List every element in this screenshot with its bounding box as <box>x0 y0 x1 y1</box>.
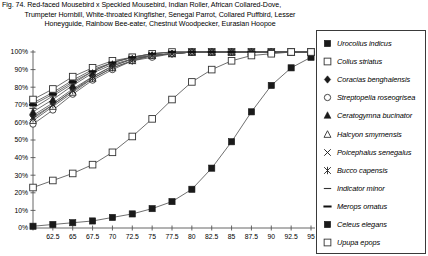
svg-text:70: 70 <box>109 233 117 240</box>
data-series-layer <box>29 48 315 229</box>
legend-item-urocolius-indicus[interactable]: Urocolius indicus <box>321 35 425 52</box>
open-square-icon <box>321 236 334 249</box>
svg-text:67.5: 67.5 <box>86 233 99 240</box>
open-square-icon <box>321 55 334 68</box>
svg-text:70%: 70% <box>14 101 28 108</box>
legend-item-upupa-epops[interactable]: Upupa epops <box>321 234 425 251</box>
legend-item-indicator-minor[interactable]: Indicator minor <box>321 180 425 197</box>
svg-text:65: 65 <box>69 233 77 240</box>
open-triangle-icon <box>321 128 334 141</box>
svg-text:85: 85 <box>228 233 236 240</box>
svg-text:75: 75 <box>148 233 156 240</box>
thick-dash-icon <box>321 200 334 213</box>
legend-label: Halcyon smyrnensis <box>337 130 402 139</box>
legend-label: Streptopelia roseogrisea <box>337 93 415 102</box>
legend-item-ceratogymna-bucinator[interactable]: Ceratogymna bucinator <box>321 107 425 124</box>
filled-square-icon <box>321 37 334 50</box>
open-circle-icon <box>321 91 334 104</box>
asterisk-icon <box>321 164 334 177</box>
svg-text:80: 80 <box>188 233 196 240</box>
legend-label: Colius striatus <box>337 57 382 66</box>
caption-line-1: Fig. 74. Red-faced Mousebird x Speckled … <box>2 1 318 11</box>
legend-label: Coracias benghalensis <box>337 75 410 84</box>
chart-legend: Urocolius indicusColius striatusCoracias… <box>316 30 426 254</box>
svg-text:20%: 20% <box>14 189 28 196</box>
legend-item-coracias-benghalensis[interactable]: Coracias benghalensis <box>321 71 425 88</box>
y-axis-tick-labels: 0%10%20%30%40%50%60%70%80%90%100% <box>11 48 28 231</box>
plot-area: 0%10%20%30%40%50%60%70%80%90%100% 62.565… <box>0 44 318 256</box>
svg-text:30%: 30% <box>14 172 28 179</box>
legend-label: Indicator minor <box>337 184 385 193</box>
svg-text:77.5: 77.5 <box>165 233 178 240</box>
legend-label: Bucco capensis <box>337 166 388 175</box>
legend-item-streptopelia-roseogrisea[interactable]: Streptopelia roseogrisea <box>321 89 425 106</box>
legend-item-halcyon-smyrnensis[interactable]: Halcyon smyrnensis <box>321 126 425 143</box>
legend-item-poicephalus-senegalus[interactable]: Poicephalus senegalus <box>321 144 425 161</box>
svg-text:90: 90 <box>268 233 276 240</box>
legend-item-celeus-elegans[interactable]: Celeus elegans <box>321 216 425 233</box>
figure-root: Fig. 74. Red-faced Mousebird x Speckled … <box>0 0 428 256</box>
svg-text:87.5: 87.5 <box>245 233 258 240</box>
legend-label: Celeus elegans <box>337 220 387 229</box>
filled-triangle-icon <box>321 109 334 122</box>
filled-square-icon <box>321 218 334 231</box>
svg-text:40%: 40% <box>14 154 28 161</box>
svg-text:100%: 100% <box>11 48 28 55</box>
svg-text:60%: 60% <box>14 119 28 126</box>
figure-caption: Fig. 74. Red-faced Mousebird x Speckled … <box>2 1 318 30</box>
legend-item-bucco-capensis[interactable]: Bucco capensis <box>321 162 425 179</box>
svg-text:92.5: 92.5 <box>285 233 298 240</box>
chart-svg: 0%10%20%30%40%50%60%70%80%90%100% 62.565… <box>0 44 318 256</box>
legend-label: Urocolius indicus <box>337 39 392 48</box>
svg-text:62.5: 62.5 <box>46 233 59 240</box>
thin-dash-icon <box>321 182 334 195</box>
svg-text:50%: 50% <box>14 136 28 143</box>
svg-text:0%: 0% <box>18 224 28 231</box>
legend-label: Ceratogymna bucinator <box>337 111 412 120</box>
x-cross-icon <box>321 146 334 159</box>
svg-text:90%: 90% <box>14 66 28 73</box>
filled-diamond-icon <box>321 73 334 86</box>
caption-line-2: Trumpeter Hornbill, White-throated Kingf… <box>2 11 318 21</box>
series-upupa-epops <box>30 49 315 191</box>
svg-text:82.5: 82.5 <box>205 233 218 240</box>
x-axis-tick-labels: 62.56567.57072.57577.58082.58587.59092.5… <box>46 233 315 240</box>
svg-text:95: 95 <box>307 233 315 240</box>
legend-label: Poicephalus senegalus <box>337 148 411 157</box>
caption-line-3: Honeyguide, Rainbow Bee-eater, Chestnut … <box>2 20 318 30</box>
legend-item-merops-ornatus[interactable]: Merops ornatus <box>321 198 425 215</box>
svg-text:10%: 10% <box>14 207 28 214</box>
svg-text:72.5: 72.5 <box>126 233 139 240</box>
svg-text:80%: 80% <box>14 84 28 91</box>
legend-label: Upupa epops <box>337 238 380 247</box>
legend-item-colius-striatus[interactable]: Colius striatus <box>321 53 425 70</box>
legend-label: Merops ornatus <box>337 202 387 211</box>
